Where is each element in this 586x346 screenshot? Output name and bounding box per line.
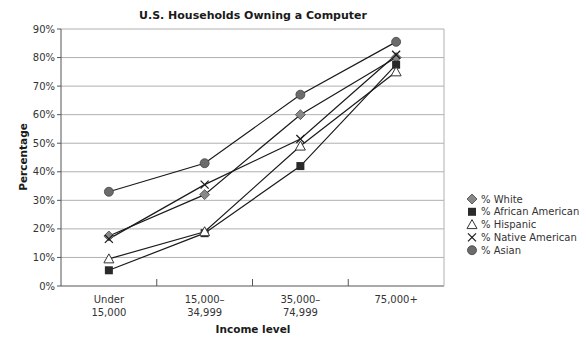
x-axis: Under15,00015,000–34,99935,000–74,99975,… bbox=[61, 29, 444, 318]
x-tick-label: 15,000 bbox=[91, 307, 126, 318]
series-group bbox=[104, 37, 401, 274]
diamond-legend-icon bbox=[467, 194, 477, 204]
legend-item: % White bbox=[467, 194, 523, 205]
circle-marker-icon bbox=[104, 187, 113, 196]
y-tick-label: 80% bbox=[33, 52, 55, 63]
legend-item: % Native American bbox=[468, 232, 577, 243]
circle-marker-icon bbox=[296, 90, 305, 99]
circle-marker-icon bbox=[200, 159, 209, 168]
circle-legend-icon bbox=[468, 246, 477, 255]
y-tick-label: 20% bbox=[33, 223, 55, 234]
y-tick-label: 0% bbox=[39, 281, 55, 292]
series-line bbox=[109, 42, 396, 192]
x-tick-label: 34,999 bbox=[187, 307, 222, 318]
y-tick-label: 90% bbox=[33, 24, 55, 35]
legend-label: % White bbox=[481, 194, 523, 205]
square-marker-icon bbox=[296, 162, 304, 170]
line-chart: U.S. Households Owning a Computer 0%10%2… bbox=[0, 0, 586, 346]
square-marker-icon bbox=[105, 266, 113, 274]
x-axis-label: Income level bbox=[216, 323, 291, 335]
y-tick-label: 10% bbox=[33, 252, 55, 263]
y-tick-label: 30% bbox=[33, 195, 55, 206]
series-line bbox=[109, 55, 396, 239]
legend-item: % Asian bbox=[468, 245, 521, 256]
circle-marker-icon bbox=[392, 37, 401, 46]
legend-label: % African American bbox=[481, 206, 579, 217]
legend-item: % African American bbox=[468, 206, 579, 217]
x-tick-label: 15,000– bbox=[185, 294, 225, 305]
y-tick-label: 50% bbox=[33, 138, 55, 149]
x-tick-label: Under bbox=[94, 294, 125, 305]
triangle-legend-icon bbox=[467, 220, 477, 229]
legend-label: % Hispanic bbox=[481, 219, 536, 230]
legend-label: % Asian bbox=[481, 245, 521, 256]
legend: % White% African American% Hispanic% Nat… bbox=[467, 194, 579, 256]
square-legend-icon bbox=[468, 208, 476, 216]
series-line bbox=[109, 72, 396, 259]
series-line bbox=[109, 65, 396, 271]
cross-legend-icon bbox=[468, 233, 476, 241]
legend-label: % Native American bbox=[481, 232, 577, 243]
series-line bbox=[109, 58, 396, 236]
x-tick-label: 35,000– bbox=[280, 294, 320, 305]
chart-title: U.S. Households Owning a Computer bbox=[139, 9, 367, 22]
x-tick-label: 74,999 bbox=[283, 307, 318, 318]
y-axis-label: Percentage bbox=[17, 123, 29, 191]
cross-marker-icon bbox=[201, 181, 209, 189]
y-axis-ticks: 0%10%20%30%40%50%60%70%80%90% bbox=[33, 24, 61, 292]
y-tick-label: 40% bbox=[33, 166, 55, 177]
x-tick-label: 75,000+ bbox=[374, 294, 417, 305]
y-tick-label: 60% bbox=[33, 109, 55, 120]
y-tick-label: 70% bbox=[33, 81, 55, 92]
legend-item: % Hispanic bbox=[467, 219, 536, 230]
